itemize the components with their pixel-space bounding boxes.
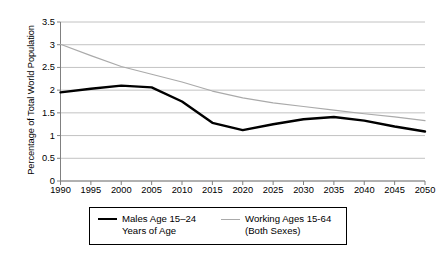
legend-label-males: Males Age 15–24 Years of Age	[122, 213, 196, 237]
series-line-working-ages-15-64	[61, 44, 426, 120]
chart-legend: Males Age 15–24 Years of Age Working Age…	[89, 207, 347, 245]
chart-figure: Percentage of Total World Population 00.…	[0, 0, 440, 253]
legend-label-males-line2: Years of Age	[122, 225, 176, 236]
legend-label-working-ages-line1: Working Ages 15-64	[245, 213, 331, 224]
legend-label-working-ages-line2: (Both Sexes)	[245, 225, 300, 236]
legend-swatch-gray-line-icon	[221, 218, 240, 220]
legend-label-working-ages: Working Ages 15-64 (Both Sexes)	[245, 213, 331, 237]
legend-swatch-black-line-icon	[98, 218, 117, 220]
legend-item-males: Males Age 15–24 Years of Age	[98, 213, 196, 241]
legend-item-working-ages: Working Ages 15-64 (Both Sexes)	[221, 213, 331, 241]
legend-label-males-line1: Males Age 15–24	[122, 213, 196, 224]
series-line-males-15-24	[61, 86, 426, 132]
